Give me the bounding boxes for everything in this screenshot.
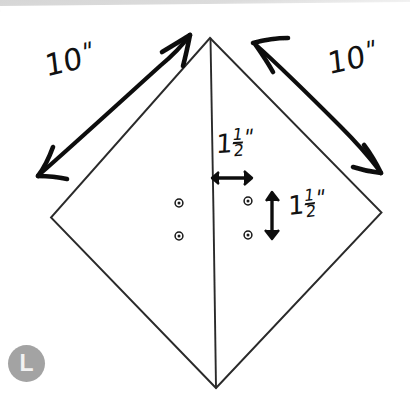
vertical-dimension-whole: 1 (288, 192, 304, 220)
vertical-dimension-label: 112" (286, 187, 326, 222)
screenshot-canvas: 10" 10" 112" 112" L (0, 0, 410, 410)
watermark-badge-label: L (19, 352, 33, 375)
grommet-hole (175, 232, 183, 240)
grommet-hole (244, 231, 252, 239)
left-dimension-value: 10 (43, 43, 84, 82)
kite-outline (51, 38, 382, 388)
horizontal-dimension-label: 112" (215, 127, 254, 160)
grommet-hole (244, 197, 252, 205)
kite-center-line (211, 39, 217, 388)
left-dimension-inch-mark: " (82, 38, 93, 65)
grommet-hole (175, 199, 183, 207)
vertical-dimension-arrow (265, 192, 279, 239)
watermark-badge-letter-l: L (8, 345, 45, 382)
horizontal-dimension-inch-mark: " (242, 127, 255, 149)
vertical-dimension-inch-mark: " (314, 187, 327, 209)
horizontal-dimension-arrow (212, 171, 252, 185)
kite-border (51, 38, 382, 388)
right-dimension-inch-mark: " (365, 36, 377, 63)
right-dimension-value: 10 (326, 41, 367, 79)
